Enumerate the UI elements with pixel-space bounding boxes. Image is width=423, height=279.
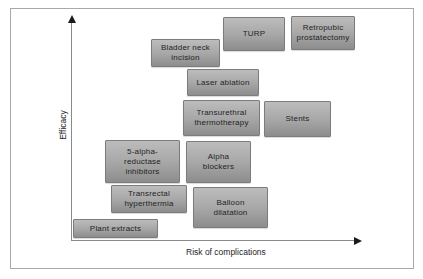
treatment-label-line: Stents bbox=[286, 114, 310, 124]
treatment-box-laser-ablation: Laser ablation bbox=[187, 69, 259, 96]
treatment-label-line: Transrectal bbox=[128, 189, 170, 199]
treatment-label-line: Retropubic bbox=[303, 23, 344, 33]
treatment-label-line: inhibitors bbox=[125, 167, 159, 177]
treatment-label-line: Laser ablation bbox=[196, 78, 249, 88]
treatment-label-line: Transurethral bbox=[197, 108, 247, 118]
x-axis-arrowhead bbox=[354, 237, 362, 245]
treatment-box-bladder-neck-incision: Bladder neckincision bbox=[151, 39, 220, 67]
y-axis-arrowhead bbox=[68, 15, 76, 23]
treatment-box-retropubic-prostatectomy: Retropubicprostatectomy bbox=[291, 16, 355, 50]
x-axis-label: Risk of complications bbox=[186, 247, 266, 257]
treatment-label-line: blockers bbox=[203, 162, 234, 172]
treatment-label-line: Bladder neck bbox=[161, 43, 210, 53]
treatment-label-line: 5-alpha- bbox=[127, 147, 158, 157]
treatment-box-transurethral-thermotherapy: Transurethralthermotherapy bbox=[183, 100, 260, 136]
treatment-label-line: incision bbox=[171, 53, 199, 63]
treatment-box-alpha-blockers: Alphablockers bbox=[186, 141, 251, 183]
treatment-label-line: thermotherapy bbox=[194, 118, 248, 128]
plot-area: Efficacy Risk of complications TURPRetro… bbox=[0, 0, 423, 279]
treatment-label-line: reductase bbox=[124, 157, 161, 167]
treatment-box-five-alpha-reductase-inhibitors: 5-alpha-reductaseinhibitors bbox=[105, 140, 180, 183]
y-axis-line bbox=[71, 22, 72, 241]
treatment-label-line: dilatation bbox=[213, 208, 247, 218]
treatment-box-turp: TURP bbox=[223, 17, 285, 51]
treatment-label-line: TURP bbox=[243, 29, 266, 39]
treatment-label-line: prostatectomy bbox=[297, 33, 350, 43]
treatment-box-balloon-dilatation: Balloondilatation bbox=[193, 187, 268, 228]
treatment-label-line: Plant extracts bbox=[90, 224, 141, 234]
treatment-label-line: Balloon bbox=[216, 198, 244, 208]
treatment-box-transrectal-hyperthermia: Transrectalhyperthermia bbox=[111, 185, 187, 213]
x-axis-line bbox=[72, 240, 356, 241]
treatment-box-plant-extracts: Plant extracts bbox=[73, 219, 158, 238]
treatment-label-line: Alpha bbox=[208, 152, 229, 162]
treatment-label-line: hyperthermia bbox=[124, 199, 173, 209]
treatment-box-stents: Stents bbox=[264, 101, 331, 137]
y-axis-label: Efficacy bbox=[58, 110, 68, 140]
